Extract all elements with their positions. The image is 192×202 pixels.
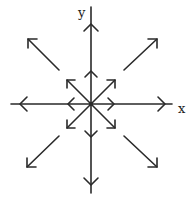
outer-arrow-up-right-shaft (124, 39, 157, 70)
x-axis-label: x (178, 101, 186, 116)
origin-point (89, 102, 93, 106)
outer-arrow-down-left-shaft (27, 136, 59, 167)
vector-field-diagram: y x (0, 0, 192, 202)
outer-arrow-up-left-shaft (28, 39, 59, 70)
y-axis-label: y (77, 5, 86, 20)
outer-arrow-down-right-shaft (124, 136, 157, 167)
